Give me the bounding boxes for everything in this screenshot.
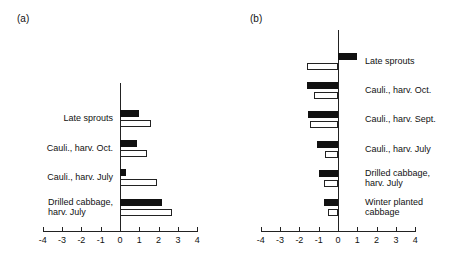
category-label: Cauli., harv. July bbox=[365, 144, 431, 154]
x-tick bbox=[81, 227, 82, 231]
category-label: Cauli., harv. Oct. bbox=[365, 85, 431, 95]
x-tick-label: 3 bbox=[168, 235, 188, 245]
bar-solid bbox=[338, 53, 357, 60]
bar-solid bbox=[317, 141, 338, 148]
x-tick bbox=[43, 227, 44, 231]
bar-open bbox=[120, 209, 172, 216]
x-tick bbox=[139, 227, 140, 231]
x-tick-label: -1 bbox=[309, 235, 329, 245]
x-tick bbox=[319, 227, 320, 231]
bar-solid bbox=[120, 140, 137, 147]
x-tick-label: 1 bbox=[129, 235, 149, 245]
x-tick-label: -2 bbox=[289, 235, 309, 245]
x-tick bbox=[377, 227, 378, 231]
bar-open bbox=[120, 179, 157, 186]
bar-solid bbox=[120, 169, 126, 176]
category-label: Cauli., harv. Sept. bbox=[365, 114, 436, 124]
x-tick-label: 4 bbox=[187, 235, 207, 245]
bar-open bbox=[307, 63, 338, 70]
x-tick bbox=[280, 227, 281, 231]
bar-open bbox=[120, 120, 151, 127]
bar-open bbox=[310, 121, 338, 128]
x-tick-label: 4 bbox=[405, 235, 425, 245]
category-label: Cauli., harv. Oct. bbox=[47, 143, 113, 153]
x-tick bbox=[120, 227, 121, 231]
x-tick bbox=[338, 227, 339, 231]
x-tick bbox=[261, 227, 262, 231]
bar-solid bbox=[120, 110, 139, 117]
bar-solid bbox=[319, 170, 338, 177]
x-tick bbox=[101, 227, 102, 231]
category-label: Cauli., harv. July bbox=[47, 172, 113, 182]
bar-solid bbox=[324, 199, 338, 206]
x-tick-label: -1 bbox=[91, 235, 111, 245]
x-tick-label: 0 bbox=[110, 235, 130, 245]
x-tick bbox=[178, 227, 179, 231]
x-tick bbox=[197, 227, 198, 231]
x-tick-label: -3 bbox=[270, 235, 290, 245]
category-label: Drilled cabbage, harv. July bbox=[48, 197, 113, 217]
x-axis-line bbox=[261, 231, 416, 232]
bar-open bbox=[328, 209, 338, 216]
panel-label: (a) bbox=[17, 13, 29, 24]
category-label: Late sprouts bbox=[365, 56, 415, 66]
x-tick-label: 3 bbox=[386, 235, 406, 245]
x-axis-line bbox=[43, 231, 198, 232]
x-tick bbox=[415, 227, 416, 231]
bar-solid bbox=[307, 82, 338, 89]
x-tick-label: -4 bbox=[251, 235, 271, 245]
category-label: Late sprouts bbox=[63, 113, 113, 123]
x-tick bbox=[62, 227, 63, 231]
x-tick-label: -3 bbox=[52, 235, 72, 245]
bar-solid bbox=[308, 111, 338, 118]
bar-open bbox=[120, 150, 147, 157]
x-tick bbox=[299, 227, 300, 231]
category-label: Drilled cabbage, harv. July bbox=[365, 168, 430, 188]
bar-open bbox=[325, 151, 338, 158]
x-tick-label: 2 bbox=[149, 235, 169, 245]
bar-solid bbox=[120, 199, 162, 206]
x-tick-label: -2 bbox=[71, 235, 91, 245]
x-tick-label: 2 bbox=[367, 235, 387, 245]
x-tick bbox=[357, 227, 358, 231]
bar-open bbox=[314, 92, 338, 99]
x-tick bbox=[396, 227, 397, 231]
panel-label: (b) bbox=[250, 13, 262, 24]
zero-axis-line bbox=[338, 30, 339, 231]
bar-open bbox=[324, 180, 338, 187]
category-label: Winter planted cabbage bbox=[365, 197, 423, 217]
x-tick-label: 1 bbox=[347, 235, 367, 245]
x-tick-label: 0 bbox=[328, 235, 348, 245]
x-tick-label: -4 bbox=[33, 235, 53, 245]
x-tick bbox=[159, 227, 160, 231]
